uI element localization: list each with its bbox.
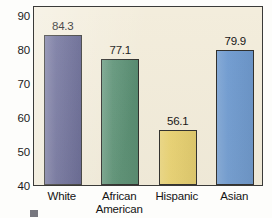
bar-value-label: 79.9: [224, 35, 246, 47]
y-axis-tick-label: 60: [18, 111, 33, 125]
y-axis-tick: 80: [18, 43, 33, 57]
bar-value-label: 56.1: [167, 115, 189, 127]
bar-value-label: 77.1: [109, 44, 131, 56]
bar-group[interactable]: 84.3: [44, 20, 82, 185]
y-axis-tick: 70: [18, 77, 33, 91]
bar-group[interactable]: 79.9: [216, 35, 254, 186]
bar-group[interactable]: 56.1: [159, 115, 197, 185]
y-axis-tick: 50: [18, 145, 33, 159]
x-axis-category-label-line: African: [102, 190, 136, 202]
x-axis-category-label-line: Asian: [220, 190, 248, 202]
x-axis-category-label: Asian: [194, 190, 272, 203]
y-axis-tick-label: 50: [18, 145, 33, 159]
plot-area: 84.377.156.179.9: [33, 6, 263, 186]
y-axis-tick-label: 80: [18, 43, 33, 57]
bar[interactable]: [216, 50, 254, 186]
bar-value-label: 84.3: [52, 20, 74, 32]
bar[interactable]: [159, 130, 197, 185]
bar-chart-screenshot: 405060708090 84.377.156.179.9 WhiteAfric…: [0, 0, 272, 218]
y-axis: 405060708090: [0, 0, 33, 218]
y-axis-tick: 60: [18, 111, 33, 125]
bar[interactable]: [44, 35, 82, 185]
y-axis-tick: 90: [18, 9, 33, 23]
bar[interactable]: [101, 59, 139, 185]
y-axis-tick-label: 70: [18, 77, 33, 91]
x-axis-category-label-line: White: [48, 190, 76, 202]
scan-artifact: [30, 210, 38, 217]
x-axis-category-label-line: Hispanic: [155, 190, 198, 202]
x-axis-category-label-line: American: [79, 203, 159, 216]
y-axis-tick-label: 90: [18, 9, 33, 23]
bar-group[interactable]: 77.1: [101, 44, 139, 185]
